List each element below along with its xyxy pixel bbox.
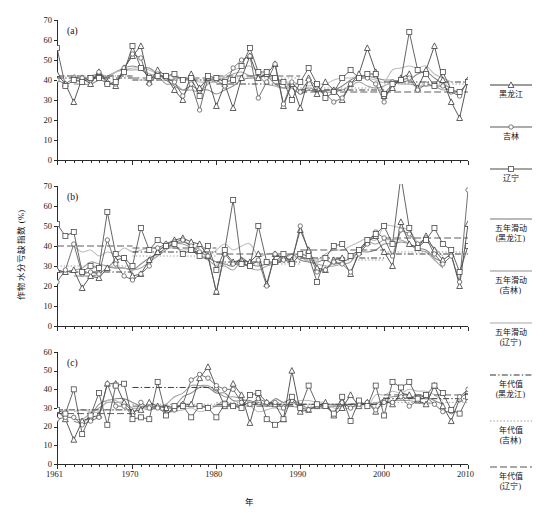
legend-label: 年代值 xyxy=(476,472,545,482)
data-point-marker xyxy=(214,383,218,387)
data-point-marker xyxy=(231,404,236,409)
data-point-marker xyxy=(373,383,378,388)
data-point-marker xyxy=(273,400,277,404)
panel-plot-area xyxy=(0,0,545,513)
legend-label: 吉林 xyxy=(476,132,545,142)
legend-swatch xyxy=(488,80,534,90)
data-point-marker xyxy=(399,395,403,399)
data-point-marker xyxy=(382,413,387,418)
data-point-marker xyxy=(231,387,235,391)
data-point-marker xyxy=(273,422,278,427)
data-point-marker xyxy=(147,406,151,410)
data-point-marker xyxy=(348,406,352,410)
panel-c: 0102030405060196119701980199020002010(c) xyxy=(0,0,545,513)
legend: 黑龙江吉林辽宁五年滑动(黑龙江)五年滑动(吉林)五年滑动(辽宁)年代值(黑龙江)… xyxy=(476,18,545,496)
legend-sublabel: (辽宁) xyxy=(476,338,545,348)
data-point-marker xyxy=(55,417,59,421)
legend-swatch xyxy=(488,416,534,426)
legend-label: 五年滑动 xyxy=(476,328,545,338)
legend-decadal-jilin[interactable]: 年代值(吉林) xyxy=(476,416,545,445)
legend-decadal-heilongjiang[interactable]: 年代值(黑龙江) xyxy=(476,370,545,399)
data-point-marker xyxy=(205,364,211,370)
legend-label: 辽宁 xyxy=(476,174,545,184)
legend-label: 五年滑动 xyxy=(476,276,545,286)
legend-swatch xyxy=(488,214,534,224)
data-point-marker xyxy=(457,411,462,416)
data-point-marker xyxy=(289,394,294,399)
data-point-marker xyxy=(457,395,461,399)
data-point-marker xyxy=(424,392,429,397)
data-point-marker xyxy=(441,410,445,414)
data-point-marker xyxy=(340,394,345,399)
legend-swatch xyxy=(488,462,534,472)
data-point-marker xyxy=(331,411,336,416)
data-point-marker xyxy=(146,399,152,405)
data-point-marker xyxy=(432,383,437,388)
data-point-marker xyxy=(449,407,454,412)
legend-jilin[interactable]: 吉林 xyxy=(476,122,545,142)
data-point-marker xyxy=(96,391,101,396)
legend-label: 年代值 xyxy=(476,426,545,436)
data-point-marker xyxy=(97,415,101,419)
data-point-marker xyxy=(289,368,295,374)
data-point-marker xyxy=(114,404,118,408)
data-point-marker xyxy=(55,407,60,412)
data-point-marker xyxy=(155,379,160,384)
data-point-marker xyxy=(122,404,126,408)
data-point-marker xyxy=(230,381,236,387)
data-point-marker xyxy=(239,400,243,404)
data-point-marker xyxy=(223,387,227,391)
data-point-marker xyxy=(72,415,76,419)
data-point-marker xyxy=(315,402,320,407)
legend-label: 年代值 xyxy=(476,380,545,390)
data-point-marker xyxy=(71,387,76,392)
data-point-marker xyxy=(415,396,420,401)
data-point-marker xyxy=(197,404,202,409)
legend-sublabel: (辽宁) xyxy=(476,482,545,492)
legend-5yr-jilin[interactable]: 五年滑动(吉林) xyxy=(476,266,545,295)
legend-label: 黑龙江 xyxy=(476,90,545,100)
data-point-marker xyxy=(298,406,303,411)
legend-heilongjiang[interactable]: 黑龙江 xyxy=(476,80,545,100)
data-point-marker xyxy=(164,413,169,418)
data-point-marker xyxy=(432,402,436,406)
data-point-marker xyxy=(147,417,152,422)
data-point-marker xyxy=(189,415,194,420)
data-point-marker xyxy=(466,394,471,399)
legend-sublabel: (黑龙江) xyxy=(476,234,545,244)
legend-decadal-liaoning[interactable]: 年代值(辽宁) xyxy=(476,462,545,491)
legend-5yr-liaoning[interactable]: 五年滑动(辽宁) xyxy=(476,318,545,347)
data-point-marker xyxy=(348,392,354,398)
data-point-marker xyxy=(390,400,394,404)
legend-5yr-heilongjiang[interactable]: 五年滑动(黑龙江) xyxy=(476,214,545,243)
data-point-marker xyxy=(306,383,311,388)
data-point-marker xyxy=(323,404,328,409)
legend-swatch xyxy=(488,266,534,276)
data-point-marker xyxy=(139,400,143,404)
legend-swatch xyxy=(488,122,534,132)
legend-liaoning[interactable]: 辽宁 xyxy=(476,164,545,184)
data-point-marker xyxy=(390,379,395,384)
data-point-marker xyxy=(189,378,193,382)
data-point-marker xyxy=(239,406,244,411)
data-point-marker xyxy=(205,406,210,411)
data-point-marker xyxy=(71,437,77,443)
data-point-marker xyxy=(264,417,269,422)
data-point-marker xyxy=(247,420,253,426)
data-point-marker xyxy=(248,402,252,406)
data-point-marker xyxy=(138,415,143,420)
data-point-marker xyxy=(440,391,445,396)
series-line xyxy=(57,374,468,424)
data-point-marker xyxy=(264,400,268,404)
data-point-marker xyxy=(113,383,118,388)
data-point-marker xyxy=(365,404,370,409)
data-point-marker xyxy=(214,415,219,420)
data-point-marker xyxy=(105,422,110,427)
data-point-marker xyxy=(206,376,210,380)
data-point-marker xyxy=(382,400,386,404)
legend-sublabel: (吉林) xyxy=(476,436,545,446)
data-point-marker xyxy=(448,418,454,424)
data-point-marker xyxy=(180,404,185,409)
legend-sublabel: (黑龙江) xyxy=(476,390,545,400)
data-point-marker xyxy=(256,391,261,396)
